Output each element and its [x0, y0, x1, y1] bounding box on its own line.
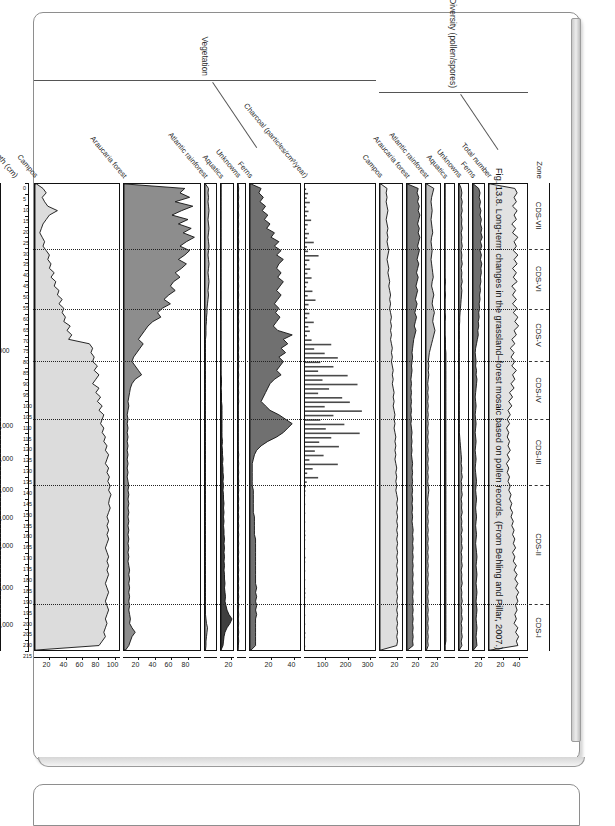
panel-series — [445, 184, 454, 650]
age-minor-tick — [0, 444, 1, 445]
age-tick — [0, 189, 1, 190]
depth-tick — [25, 597, 29, 598]
depth-tick-label: 160 — [23, 533, 32, 539]
age-minor-tick — [0, 595, 1, 596]
age-tick-label: 25,000 — [0, 514, 13, 521]
depth-tick — [25, 335, 29, 336]
figure-wrap: Total number2040Ferns20UnknownsAquaticsA… — [50, 18, 550, 744]
depth-tick-label: 135 — [23, 479, 32, 485]
pollen-panel: Charcoal (particles/cm³/year)100200300 — [304, 183, 376, 651]
age-minor-tick — [0, 484, 1, 485]
age-minor-tick — [0, 470, 1, 471]
depth-tick — [25, 455, 29, 456]
age-minor-tick — [0, 448, 1, 449]
pollen-panel: Ferns20 — [472, 183, 485, 651]
depth-tick-label: 65 — [23, 327, 29, 333]
y-axis-tick-label: 20 — [43, 661, 51, 668]
depth-tick-label: 100 — [23, 403, 32, 409]
y-axis-tick-label: 200 — [340, 661, 352, 668]
panel-y-axis: 20406080100 — [34, 655, 120, 719]
depth-tick — [25, 292, 29, 293]
panel-plot-area — [406, 183, 422, 651]
y-axis-spine — [237, 657, 246, 658]
age-tick-label: 20,000 — [0, 486, 13, 493]
age-tick — [0, 344, 1, 345]
depth-tick-label: 210 — [23, 642, 32, 648]
depth-tick-label: 145 — [23, 501, 32, 507]
depth-tick — [25, 379, 29, 380]
zone-guide-line — [33, 419, 528, 420]
panel-series — [426, 184, 440, 650]
depth-tick — [25, 324, 29, 325]
age-minor-tick — [0, 426, 1, 427]
y-axis-tick-label: 100 — [107, 661, 119, 668]
y-axis-tick-label: 20 — [132, 661, 140, 668]
zone-label: CDS-V — [535, 323, 544, 347]
zone-guide-line — [33, 361, 528, 362]
age-minor-tick — [0, 533, 1, 534]
age-minor-tick — [0, 497, 1, 498]
panel-y-axis: 20406080 — [123, 655, 201, 719]
y-axis-spine — [220, 657, 234, 658]
depth-tick — [25, 510, 29, 511]
depth-tick — [25, 281, 29, 282]
y-axis-tick-label: 60 — [76, 661, 84, 668]
depth-axis: 0510152025303540455055606570758085909510… — [3, 183, 29, 651]
age-minor-tick — [0, 519, 1, 520]
depth-tick — [25, 194, 29, 195]
page-sheet-shadow — [38, 757, 585, 767]
zone-divider — [529, 249, 549, 250]
pollen-panel: Ferns2040 — [249, 183, 301, 651]
age-minor-tick — [0, 493, 1, 494]
zone-divider — [529, 361, 549, 362]
depth-tick-label: 165 — [23, 544, 32, 550]
age-minor-tick — [0, 506, 1, 507]
age-minor-tick — [0, 479, 1, 480]
depth-tick — [25, 248, 29, 249]
age-minor-tick — [0, 541, 1, 542]
pollen-panel: Araucaria forest20406080 — [123, 183, 201, 651]
depth-tick-label: 75 — [23, 348, 29, 354]
zone-label: CDS-IV — [535, 377, 544, 403]
age-minor-tick — [0, 421, 1, 422]
y-axis-tick-label: 60 — [165, 661, 173, 668]
zone-guide-line — [33, 604, 528, 605]
y-axis-tick-label: 20 — [265, 661, 273, 668]
zone-cell: CDS-III — [529, 419, 549, 485]
depth-tick-label: 20 — [23, 229, 29, 235]
age-minor-tick — [0, 555, 1, 556]
panel-y-axis: 20 — [220, 655, 234, 719]
y-axis-spine — [204, 657, 217, 658]
age-tick — [0, 539, 1, 540]
pollen-panel: Campos20 — [379, 183, 403, 651]
depth-tick-label: 55 — [23, 305, 29, 311]
depth-tick-label: 155 — [23, 523, 32, 529]
panel-series — [205, 184, 216, 650]
zone-label: CDS-I — [535, 617, 544, 638]
zone-guide-line — [33, 485, 528, 486]
y-axis-tick-label: 40 — [148, 661, 156, 668]
panel-plot-area — [237, 183, 246, 651]
zone-divider — [529, 309, 549, 310]
age-minor-tick — [0, 501, 1, 502]
panel-y-axis — [237, 655, 246, 719]
depth-tick — [25, 542, 29, 543]
depth-tick-label: 85 — [23, 370, 29, 376]
panel-series — [35, 184, 119, 650]
age-minor-tick — [0, 617, 1, 618]
depth-tick-label: 35 — [23, 261, 29, 267]
depth-tick-label: 90 — [23, 381, 29, 387]
y-axis-tick-label: 20 — [224, 661, 232, 668]
y-axis-tick-label: 20 — [430, 661, 438, 668]
depth-tick-label: 120 — [23, 446, 32, 452]
depth-tick — [25, 390, 29, 391]
y-axis-tick-label: 80 — [92, 661, 100, 668]
depth-tick — [25, 466, 29, 467]
depth-tick — [25, 314, 29, 315]
panel-y-axis: 20 — [425, 655, 441, 719]
zone-label: CDS-VII — [535, 202, 544, 230]
age-minor-tick — [0, 564, 1, 565]
age-minor-tick — [0, 524, 1, 525]
panel-plot-area — [249, 183, 301, 651]
age-minor-tick — [0, 439, 1, 440]
